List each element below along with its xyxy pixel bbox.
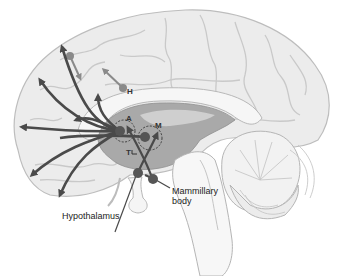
brain-diagram: H A M T Hypothalamus Mammillary body [0, 0, 346, 276]
anterior-nucleus [115, 126, 125, 136]
brain-illustration [0, 0, 346, 276]
label-mammillary-body-line2: body [172, 196, 192, 206]
hypothalamus-dot [133, 168, 143, 178]
label-a: A [126, 114, 132, 124]
label-hypothalamus: Hypothalamus [62, 211, 120, 221]
label-h: H [127, 87, 133, 97]
mammillary-body-dot [148, 174, 158, 184]
label-m: M [155, 121, 162, 131]
label-t: T [126, 148, 131, 158]
pituitary [128, 177, 147, 213]
medial-nucleus [140, 132, 150, 142]
label-mammillary-body-line1: Mammillary [172, 186, 218, 196]
